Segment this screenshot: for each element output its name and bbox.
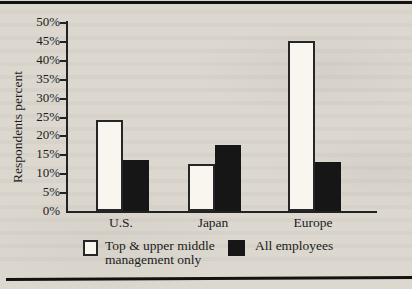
y-tick-label-10: 10%: [24, 165, 60, 181]
y-tick-50: [60, 22, 67, 24]
y-tick-25: [60, 117, 67, 119]
scanned-figure-page: Respondents percent 0%5%10%15%20%25%30%3…: [0, 0, 412, 289]
y-tick-30: [60, 98, 67, 100]
x-label-us: U.S.: [79, 215, 163, 231]
bottom-rule: [6, 276, 412, 281]
legend-swatch-all-employees: [228, 240, 245, 256]
y-tick-40: [60, 60, 67, 62]
y-tick-label-35: 35%: [24, 71, 60, 87]
legend-swatch-management: [83, 240, 98, 256]
bar-japan-all-employees: [215, 145, 241, 211]
bar-japan-top-upper-middle-management-only: [188, 164, 215, 211]
bar-europe-all-employees: [315, 162, 341, 211]
y-tick-label-45: 45%: [24, 33, 60, 49]
y-tick-label-5: 5%: [24, 184, 60, 200]
y-tick-10: [60, 173, 67, 175]
y-tick-label-30: 30%: [24, 90, 60, 106]
x-label-europe: Europe: [271, 215, 355, 231]
y-tick-label-40: 40%: [24, 52, 60, 68]
y-tick-5: [60, 192, 67, 194]
y-tick-label-50: 50%: [24, 14, 60, 30]
y-tick-35: [60, 79, 67, 81]
y-tick-45: [60, 41, 67, 43]
bar-us-all-employees: [123, 160, 149, 211]
y-tick-label-20: 20%: [24, 127, 60, 143]
y-tick-label-15: 15%: [24, 146, 60, 162]
legend-label-all-employees: All employees: [255, 239, 385, 253]
top-rule: [0, 1, 412, 4]
y-tick-label-0: 0%: [24, 203, 60, 219]
x-label-japan: Japan: [171, 215, 255, 231]
y-tick-20: [60, 135, 67, 137]
bar-europe-top-upper-middle-management-only: [288, 41, 315, 211]
y-tick-label-25: 25%: [24, 109, 60, 125]
x-axis-line: [66, 211, 377, 213]
bar-us-top-upper-middle-management-only: [96, 120, 123, 211]
y-tick-15: [60, 154, 67, 156]
